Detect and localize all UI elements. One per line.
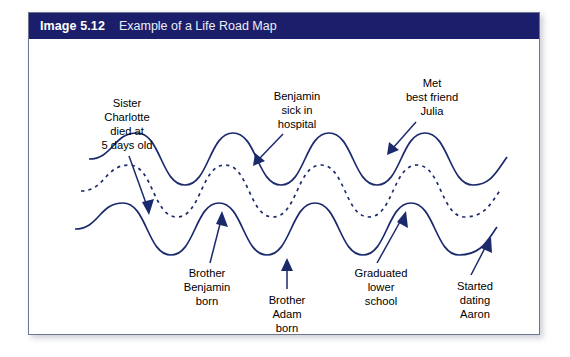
- lower-road-edge-line: [75, 203, 497, 255]
- page-root: Image 5.12 Example of a Life Road Map Si…: [0, 0, 570, 357]
- annotation-met-julia-leader: [393, 122, 416, 148]
- annotation-benjamin-sick: Benjamin sick in hospital: [253, 90, 320, 166]
- annotation-benjamin-sick-line3: hospital: [278, 118, 317, 130]
- annotation-met-julia-line2: best friend: [406, 91, 458, 103]
- annotation-benjamin-sick-line1: Benjamin: [274, 90, 321, 102]
- annotation-sister-charlotte-line3: died at: [110, 125, 144, 137]
- annotation-sister-charlotte-line4: 5 days old: [102, 139, 153, 151]
- annotation-brother-benjamin-line2: Benjamin: [184, 281, 231, 293]
- annotation-started-dating: Started dating Aaron: [457, 237, 493, 320]
- figure-card: Image 5.12 Example of a Life Road Map Si…: [28, 12, 540, 335]
- annotation-started-dating-line2: dating: [460, 294, 490, 306]
- annotation-brother-benjamin-arrow-icon: [216, 211, 228, 227]
- annotation-sister-charlotte-arrow-icon: [142, 199, 154, 215]
- annotation-benjamin-sick-leader: [259, 134, 283, 159]
- annotation-started-dating-line3: Aaron: [460, 308, 490, 320]
- annotation-brother-benjamin-line3: born: [196, 295, 218, 307]
- annotation-brother-adam-line2: Adam: [272, 308, 301, 320]
- annotation-graduated-line1: Graduated: [355, 267, 408, 279]
- road-lines: [75, 133, 507, 255]
- annotation-brother-adam-arrow-icon: [281, 258, 293, 271]
- figure-caption-bar: Image 5.12 Example of a Life Road Map: [29, 13, 539, 39]
- annotation-brother-benjamin-line1: Brother: [189, 267, 226, 279]
- annotation-started-dating-line1: Started: [457, 280, 493, 292]
- annotation-benjamin-sick-line2: sick in: [281, 104, 312, 116]
- life-road-map-diagram: Sister Charlotte died at 5 days old Benj…: [29, 39, 539, 334]
- annotation-brother-adam: Brother Adam born: [269, 258, 306, 334]
- annotation-graduated: Graduated lower school: [355, 211, 408, 307]
- annotation-sister-charlotte-line1: Sister: [113, 97, 142, 109]
- figure-caption-title: Example of a Life Road Map: [119, 19, 277, 33]
- annotation-brother-adam-line1: Brother: [269, 294, 306, 306]
- annotation-met-julia: Met best friend Julia: [387, 77, 458, 155]
- annotation-brother-benjamin: Brother Benjamin born: [184, 211, 231, 307]
- annotation-sister-charlotte: Sister Charlotte died at 5 days old: [102, 97, 155, 215]
- annotation-brother-adam-line3: born: [276, 322, 298, 334]
- annotation-met-julia-line3: Julia: [420, 105, 444, 117]
- annotation-met-julia-line1: Met: [423, 77, 443, 89]
- annotation-brother-benjamin-leader: [210, 220, 221, 263]
- road-centre-dashed-line: [81, 165, 501, 217]
- annotation-graduated-line2: lower: [368, 281, 395, 293]
- figure-caption-label: Image 5.12: [40, 19, 105, 33]
- annotation-sister-charlotte-line2: Charlotte: [104, 111, 149, 123]
- annotation-sister-charlotte-leader: [129, 156, 147, 206]
- annotation-graduated-line3: school: [365, 295, 397, 307]
